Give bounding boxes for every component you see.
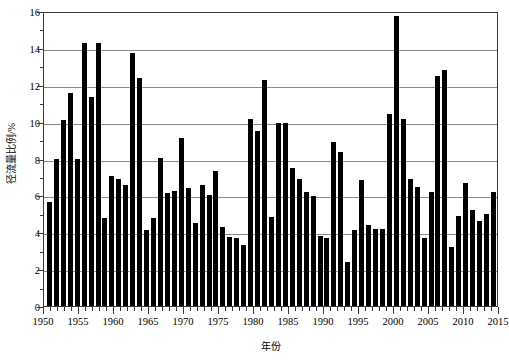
x-tick-mark-minor — [162, 307, 163, 311]
bar-slot — [164, 13, 171, 306]
bar-slot — [351, 13, 358, 306]
x-axis-ticks — [43, 307, 498, 315]
bar — [47, 202, 52, 306]
bar-slot — [441, 13, 448, 306]
x-tick-mark-minor — [267, 307, 268, 311]
bar-slot — [46, 13, 53, 306]
x-tick-mark-minor — [197, 307, 198, 311]
bar — [394, 16, 399, 306]
x-tick-mark-minor — [316, 307, 317, 311]
bar — [262, 80, 267, 306]
x-tick-mark-minor — [309, 307, 310, 311]
x-tick-mark-minor — [225, 307, 226, 311]
x-tick-mark-minor — [92, 307, 93, 311]
x-axis-tick-labels: 1950195519601965197019751980198519901995… — [43, 316, 498, 332]
x-tick-mark-minor — [449, 307, 450, 311]
x-tick-mark-minor — [407, 307, 408, 311]
bar-slot — [483, 13, 490, 306]
bar-slot — [81, 13, 88, 306]
bar-slot — [282, 13, 289, 306]
bar-slot — [428, 13, 435, 306]
x-tick-mark — [358, 307, 359, 314]
bar-slot — [379, 13, 386, 306]
x-tick-label: 2000 — [383, 316, 404, 327]
bar — [158, 158, 163, 306]
bar — [109, 176, 114, 306]
bar-slot — [275, 13, 282, 306]
bar-slot — [448, 13, 455, 306]
bar-slot — [233, 13, 240, 306]
x-tick-mark-minor — [274, 307, 275, 311]
x-tick-mark — [78, 307, 79, 314]
x-tick-mark-minor — [372, 307, 373, 311]
x-tick-mark-minor — [337, 307, 338, 311]
bar-slot — [421, 13, 428, 306]
bar-slot — [303, 13, 310, 306]
x-tick-mark — [288, 307, 289, 314]
bar-slot — [296, 13, 303, 306]
bar-slot — [386, 13, 393, 306]
x-axis-title: 年份 — [43, 338, 498, 353]
bar-slot — [206, 13, 213, 306]
x-tick-mark-minor — [120, 307, 121, 311]
bar — [102, 218, 107, 307]
x-tick-mark-minor — [141, 307, 142, 311]
x-tick-mark-minor — [246, 307, 247, 311]
bar — [116, 179, 121, 306]
bar — [345, 262, 350, 306]
x-tick-mark — [43, 307, 44, 314]
bar-slot — [455, 13, 462, 306]
bar — [241, 245, 246, 306]
bar — [255, 131, 260, 306]
x-tick-mark-minor — [204, 307, 205, 311]
bar-slot — [400, 13, 407, 306]
bar — [61, 120, 66, 306]
x-tick-mark — [218, 307, 219, 314]
bar-slot — [344, 13, 351, 306]
x-tick-mark-minor — [379, 307, 380, 311]
x-tick-label: 1975 — [208, 316, 229, 327]
bar — [331, 142, 336, 306]
bar — [311, 196, 316, 306]
x-tick-mark-minor — [127, 307, 128, 311]
x-tick-label: 1980 — [243, 316, 264, 327]
bar — [179, 138, 184, 306]
x-tick-mark-minor — [99, 307, 100, 311]
x-tick-mark-minor — [176, 307, 177, 311]
bar — [477, 221, 482, 306]
bar-slot — [213, 13, 220, 306]
x-tick-mark-minor — [190, 307, 191, 311]
x-tick-mark-minor — [456, 307, 457, 311]
x-tick-mark — [498, 307, 499, 314]
bar-slot — [469, 13, 476, 306]
bar-slot — [143, 13, 150, 306]
bar — [151, 218, 156, 306]
bar-slot — [95, 13, 102, 306]
x-tick-mark-minor — [386, 307, 387, 311]
x-tick-mark-minor — [232, 307, 233, 311]
bar-slot — [53, 13, 60, 306]
bar-slot — [268, 13, 275, 306]
x-tick-mark-minor — [106, 307, 107, 311]
x-tick-mark-minor — [470, 307, 471, 311]
bar-slot — [261, 13, 268, 306]
x-tick-mark-minor — [85, 307, 86, 311]
bar — [338, 152, 343, 306]
bar — [82, 43, 87, 306]
bar — [442, 70, 447, 306]
bar-slot — [365, 13, 372, 306]
x-tick-mark-minor — [477, 307, 478, 311]
x-tick-mark-minor — [134, 307, 135, 311]
x-tick-mark-minor — [330, 307, 331, 311]
x-tick-mark-minor — [351, 307, 352, 311]
bar — [186, 188, 191, 306]
bar-slot — [129, 13, 136, 306]
bar-slot — [324, 13, 331, 306]
bar — [54, 159, 59, 306]
bar — [123, 185, 128, 306]
bar — [373, 229, 378, 306]
bar-slot — [102, 13, 109, 306]
bar — [297, 179, 302, 306]
bar — [304, 192, 309, 306]
